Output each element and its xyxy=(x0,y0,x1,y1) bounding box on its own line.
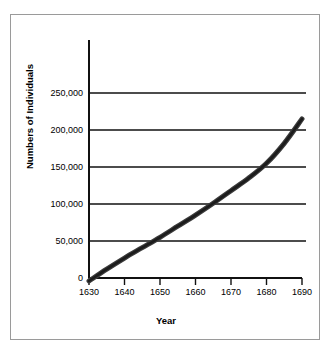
y-tick-label: 100,000 xyxy=(11,199,83,209)
y-tick-label: 0 xyxy=(11,273,83,283)
chart-figure: Numbers of Individuals Year 050,000100,0… xyxy=(10,14,320,340)
x-tick-label: 1690 xyxy=(280,287,320,297)
y-tick-label: 250,000 xyxy=(11,88,83,98)
y-tick-label: 200,000 xyxy=(11,125,83,135)
x-tickmarks xyxy=(89,278,302,285)
y-tick-label: 50,000 xyxy=(11,236,83,246)
y-tick-label: 150,000 xyxy=(11,162,83,172)
data-series-line-halo xyxy=(89,119,302,281)
gridlines xyxy=(89,93,306,241)
data-series-line xyxy=(89,119,302,281)
